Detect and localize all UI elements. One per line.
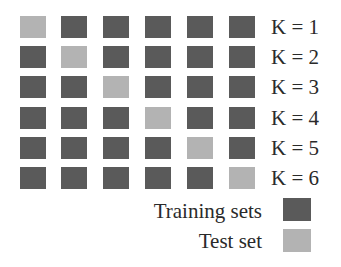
- training-block: [187, 107, 213, 129]
- fold-label: K = 1: [271, 16, 319, 38]
- legend-training-label: Training sets: [154, 199, 262, 223]
- legend-test-swatch: [283, 229, 311, 252]
- training-block: [61, 167, 87, 189]
- fold-label: K = 5: [271, 137, 319, 159]
- training-block: [187, 16, 213, 38]
- fold-label: K = 3: [271, 76, 319, 98]
- training-block: [103, 16, 129, 38]
- training-block: [20, 46, 46, 68]
- training-block: [61, 107, 87, 129]
- training-block: [20, 137, 46, 159]
- fold-label: K = 6: [271, 167, 319, 189]
- test-block: [229, 167, 255, 189]
- training-block: [103, 137, 129, 159]
- training-block: [145, 137, 171, 159]
- training-block: [103, 167, 129, 189]
- legend-training-swatch: [283, 198, 311, 221]
- test-block: [103, 76, 129, 98]
- test-block: [61, 46, 87, 68]
- training-block: [103, 46, 129, 68]
- training-block: [187, 76, 213, 98]
- training-block: [145, 16, 171, 38]
- training-block: [20, 167, 46, 189]
- test-block: [20, 16, 46, 38]
- training-block: [145, 167, 171, 189]
- training-block: [103, 107, 129, 129]
- test-block: [145, 107, 171, 129]
- training-block: [145, 46, 171, 68]
- training-block: [20, 107, 46, 129]
- training-block: [229, 16, 255, 38]
- fold-label: K = 2: [271, 46, 319, 68]
- training-block: [229, 46, 255, 68]
- legend-test-label: Test set: [199, 229, 262, 253]
- training-block: [187, 46, 213, 68]
- fold-label: K = 4: [271, 107, 319, 129]
- test-block: [187, 137, 213, 159]
- training-block: [187, 167, 213, 189]
- training-block: [61, 137, 87, 159]
- training-block: [61, 16, 87, 38]
- training-block: [229, 76, 255, 98]
- training-block: [229, 137, 255, 159]
- training-block: [145, 76, 171, 98]
- training-block: [61, 76, 87, 98]
- training-block: [229, 107, 255, 129]
- training-block: [20, 76, 46, 98]
